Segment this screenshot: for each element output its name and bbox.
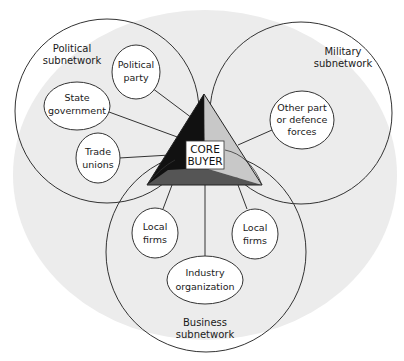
node-defence-forces: Other part or defence forces [270, 91, 334, 149]
business-subnetwork-label-2: subnetwork [176, 329, 235, 340]
core-buyer-network-diagram: CORE BUYER Political subnetwork Military… [0, 0, 404, 361]
node-trade-unions: Trade unions [76, 133, 120, 183]
node-state-government: State government [44, 82, 110, 130]
political-subnetwork-label-1: Political [53, 43, 91, 54]
business-subnetwork-label-1: Business [183, 317, 227, 328]
svg-text:firms: firms [143, 234, 167, 245]
svg-text:Political: Political [118, 59, 155, 70]
svg-text:government: government [48, 105, 106, 116]
military-subnetwork-label-2: subnetwork [314, 58, 373, 69]
svg-text:forces: forces [288, 126, 317, 137]
svg-text:Other part: Other part [277, 102, 327, 113]
svg-text:organization: organization [175, 281, 234, 292]
svg-text:Industry: Industry [185, 267, 224, 278]
svg-text:or defence: or defence [277, 114, 328, 125]
political-subnetwork-label-2: subnetwork [43, 55, 102, 66]
svg-text:Local: Local [143, 221, 168, 232]
svg-text:Local: Local [243, 222, 268, 233]
svg-text:unions: unions [82, 159, 114, 170]
core-buyer-label-2: BUYER [187, 155, 222, 167]
svg-text:State: State [64, 92, 89, 103]
node-local-firms-left: Local firms [132, 208, 178, 258]
node-local-firms-right: Local firms [232, 209, 278, 259]
node-industry-organization: Industry organization [167, 256, 243, 304]
svg-text:Trade: Trade [84, 146, 111, 157]
military-subnetwork-label-1: Military [324, 46, 361, 57]
svg-text:firms: firms [243, 235, 267, 246]
node-political-party: Political party [112, 45, 160, 99]
svg-text:party: party [123, 72, 148, 83]
core-buyer-label-1: CORE [190, 143, 220, 155]
